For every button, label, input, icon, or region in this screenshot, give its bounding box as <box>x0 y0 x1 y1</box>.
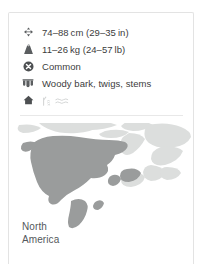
fact-row-conservation: Common <box>9 59 193 73</box>
map-caption: North America <box>22 220 59 246</box>
teeth-diet-icon <box>20 77 36 90</box>
fact-label-diet: Woody bark, twigs, stems <box>42 77 151 90</box>
habitat-home-icon <box>20 94 36 107</box>
size-arrows-icon <box>20 26 36 39</box>
map-caption-line2: America <box>22 233 59 246</box>
habitat-water-icon <box>55 95 71 106</box>
habitat-grass-icon <box>42 95 51 106</box>
habitat-glyph-group <box>42 95 71 106</box>
map-caption-line1: North <box>22 220 59 233</box>
fact-list: 74–88 cm (29–35 in) 11–26 kg (24–57 lb) … <box>9 13 193 107</box>
fact-row-habitat <box>9 93 193 107</box>
fact-row-length: 74–88 cm (29–35 in) <box>9 25 193 39</box>
weight-scale-icon <box>20 43 36 56</box>
conservation-status-icon <box>20 60 36 73</box>
fact-label-length: 74–88 cm (29–35 in) <box>42 26 129 39</box>
fact-label-conservation: Common <box>42 60 81 73</box>
species-info-card: 74–88 cm (29–35 in) 11–26 kg (24–57 lb) … <box>8 12 194 264</box>
fact-label-weight: 11–26 kg (24–57 lb) <box>42 43 125 56</box>
fact-row-weight: 11–26 kg (24–57 lb) <box>9 42 193 56</box>
fact-row-diet: Woody bark, twigs, stems <box>9 76 193 90</box>
section-divider <box>20 115 183 116</box>
